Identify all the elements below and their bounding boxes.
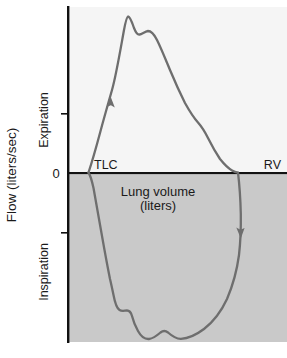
expiration-label: Expiration [37,92,51,148]
x-axis-title-line1: Lung volume [121,184,195,199]
zero-tick-label: 0 [52,166,59,181]
rv-label: RV [264,158,282,172]
y-axis-title: Flow (liters/sec) [4,128,19,223]
zero-flow-line [69,172,287,174]
flow-volume-loop-figure: Flow (liters/sec) Expiration 0 Inspirati… [0,0,287,358]
y-axis-tick-lower [61,232,67,234]
x-axis-title-line2: (liters) [140,198,176,213]
tlc-label: TLC [94,158,118,172]
flow-volume-loop-svg: Flow (liters/sec) Expiration 0 Inspirati… [0,0,287,358]
inspiration-label: Inspiration [37,243,51,301]
y-axis-line [67,6,69,343]
y-axis-tick-upper [61,113,67,115]
